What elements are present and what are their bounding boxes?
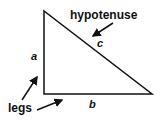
right-triangle-diagram: hypotenuse c a b legs bbox=[0, 0, 163, 122]
side-c-label: c bbox=[97, 37, 103, 49]
hypotenuse-label: hypotenuse bbox=[70, 8, 138, 22]
legs-label: legs bbox=[8, 101, 32, 115]
leg-a-arrow-icon bbox=[22, 77, 37, 100]
side-a-label: a bbox=[31, 50, 37, 62]
leg-b-arrow-icon bbox=[37, 100, 62, 110]
triangle-shape bbox=[44, 11, 152, 94]
hypotenuse-arrow-icon bbox=[93, 23, 113, 36]
side-b-label: b bbox=[89, 98, 96, 110]
